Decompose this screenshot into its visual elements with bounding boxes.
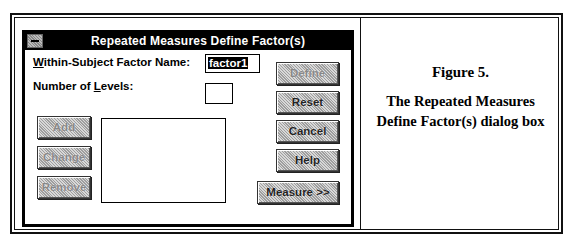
factor-name-label-accel: W	[33, 56, 44, 68]
factor-name-label-text: ithin-Subject Factor Name:	[44, 56, 190, 68]
reset-button[interactable]: Reset	[276, 91, 339, 114]
remove-button[interactable]: Remove	[37, 176, 91, 199]
add-button[interactable]: Add	[37, 116, 91, 139]
factor-name-input[interactable]: factor1	[205, 54, 260, 73]
factor-name-label: Within-Subject Factor Name:	[33, 56, 190, 68]
help-button[interactable]: Help	[276, 149, 339, 172]
levels-label-post: evels:	[101, 80, 134, 92]
figure-label: Figure 5.	[361, 64, 560, 81]
change-button[interactable]: Change	[37, 146, 91, 169]
factor-name-value: factor1	[208, 57, 248, 69]
figure-caption: The Repeated Measures Define Factor(s) d…	[361, 91, 560, 131]
measure-button[interactable]: Measure >>	[257, 181, 339, 204]
system-menu-icon[interactable]	[27, 34, 43, 48]
dialog-title: Repeated Measures Define Factor(s)	[45, 34, 351, 48]
factor-list[interactable]	[101, 118, 226, 203]
figure-caption-line1: The Repeated Measures	[361, 91, 560, 111]
define-button[interactable]: Define	[276, 62, 339, 85]
levels-label-pre: Number of	[33, 80, 94, 92]
dialog-titlebar[interactable]: Repeated Measures Define Factor(s)	[25, 33, 351, 50]
define-factors-dialog: Repeated Measures Define Factor(s) Withi…	[22, 30, 354, 227]
figure-caption-line2: Define Factor(s) dialog box	[361, 111, 560, 131]
levels-input[interactable]	[205, 83, 233, 104]
levels-label: Number of Levels:	[33, 80, 133, 92]
levels-label-accel: L	[94, 80, 101, 92]
cancel-button[interactable]: Cancel	[276, 120, 339, 143]
